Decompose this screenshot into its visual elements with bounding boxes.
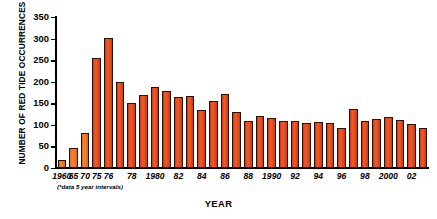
bar: [396, 120, 405, 168]
bar: [151, 87, 160, 168]
bar: [407, 124, 416, 168]
bar: [209, 101, 218, 168]
x-tick-label-94: 94: [313, 171, 323, 181]
bar: [291, 121, 300, 168]
bar: [92, 58, 101, 168]
y-axis-title: NUMBER OF RED TIDE OCCURRENCES: [17, 0, 27, 168]
x-tick-label-2000: 2000: [379, 171, 398, 181]
y-tick-mark: [51, 60, 56, 61]
bar: [116, 82, 125, 168]
x-tick-label-96: 96: [337, 171, 347, 181]
bar: [139, 95, 148, 168]
red-tide-occurrences-bar-chart: NUMBER OF RED TIDE OCCURRENCES 050100150…: [0, 0, 437, 219]
y-tick-mark: [51, 146, 56, 147]
bar: [361, 121, 370, 168]
y-tick-label: 250: [33, 54, 49, 65]
x-tick-label-92: 92: [290, 171, 300, 181]
x-tick-label-98: 98: [360, 171, 370, 181]
bar: [326, 123, 335, 168]
bar: [279, 121, 288, 168]
y-tick-mark: [51, 168, 56, 169]
x-tick-label-75: 75: [92, 171, 102, 181]
bar: [58, 160, 67, 168]
y-tick-mark: [51, 82, 56, 83]
bar: [69, 148, 78, 168]
y-tick-mark: [51, 103, 56, 104]
x-tick-label-02: 02: [407, 171, 417, 181]
bar: [244, 121, 253, 168]
bar: [419, 128, 428, 168]
y-tick-label: 0: [44, 162, 49, 173]
x-tick-label-78: 78: [127, 171, 137, 181]
bar: [384, 117, 393, 168]
bar: [314, 122, 323, 168]
x-axis-title: YEAR: [0, 198, 437, 209]
y-tick-label: 300: [33, 33, 49, 44]
bar: [267, 118, 276, 168]
bar: [104, 38, 113, 168]
bar: [302, 123, 311, 168]
bar: [337, 128, 346, 168]
y-tick-label: 200: [33, 76, 49, 87]
bar: [127, 103, 136, 168]
bar: [232, 112, 241, 168]
x-tick-label-76: 76: [104, 171, 114, 181]
y-tick-label: 350: [33, 11, 49, 22]
y-tick-mark: [51, 39, 56, 40]
x-tick-label-1990: 1990: [262, 171, 281, 181]
bar: [256, 116, 265, 168]
bar: [81, 133, 90, 168]
x-axis-footnote: (*data 5 year intervals): [57, 183, 123, 190]
x-tick-label-1980: 1980: [146, 171, 165, 181]
x-tick-label-86: 86: [220, 171, 230, 181]
y-tick-label: 150: [33, 97, 49, 108]
y-tick-mark: [51, 17, 56, 18]
bar: [372, 119, 381, 168]
bar: [221, 94, 230, 168]
y-tick-label: 50: [39, 140, 49, 151]
bar: [349, 109, 358, 168]
x-tick-label-84: 84: [197, 171, 207, 181]
y-tick-label: 100: [33, 119, 49, 130]
plot-area: 050100150200250300350: [56, 17, 429, 168]
x-tick-label-82: 82: [174, 171, 184, 181]
x-tick-label-88: 88: [244, 171, 254, 181]
x-tick-label-70: 70: [80, 171, 90, 181]
x-tick-label-65: 65: [69, 171, 79, 181]
bar: [197, 110, 206, 168]
bar: [162, 91, 171, 168]
bar: [186, 96, 195, 168]
y-tick-mark: [51, 125, 56, 126]
bar: [174, 97, 183, 168]
